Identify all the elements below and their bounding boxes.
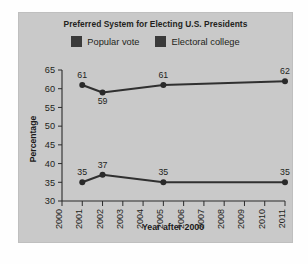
y-tick-label: 45 xyxy=(45,140,55,150)
plot-area: 3035404550556065 20002001200220032004200… xyxy=(18,12,293,243)
y-tick-label: 55 xyxy=(45,103,55,113)
y-axis: 3035404550556065 xyxy=(45,65,62,206)
y-tick-label: 40 xyxy=(45,159,55,169)
data-series xyxy=(79,78,288,185)
data-point-label: 62 xyxy=(280,66,290,76)
data-point xyxy=(79,179,85,185)
data-point-label: 59 xyxy=(98,96,108,106)
data-point-label: 35 xyxy=(77,167,87,177)
data-point xyxy=(79,82,85,88)
data-point-label: 37 xyxy=(98,160,108,170)
data-point xyxy=(160,82,166,88)
data-point xyxy=(100,172,106,178)
series-line xyxy=(82,81,285,92)
data-point xyxy=(282,179,288,185)
data-point xyxy=(160,179,166,185)
data-point-label: 61 xyxy=(158,70,168,80)
y-tick-label: 60 xyxy=(45,84,55,94)
series-line xyxy=(82,175,285,182)
y-tick-label: 35 xyxy=(45,178,55,188)
y-tick-label: 50 xyxy=(45,121,55,131)
data-point-label: 35 xyxy=(280,167,290,177)
y-tick-label: 30 xyxy=(45,196,55,206)
data-point xyxy=(100,89,106,95)
chart-panel: Preferred System for Electing U.S. Presi… xyxy=(18,12,293,243)
y-axis-title: Percentage xyxy=(28,104,38,174)
data-point-label: 35 xyxy=(158,167,168,177)
y-tick-label: 65 xyxy=(45,65,55,75)
x-axis-title: Year after 2000 xyxy=(58,222,288,232)
data-point xyxy=(282,78,288,84)
chart-figure: Preferred System for Electing U.S. Presi… xyxy=(0,0,308,264)
data-point-label: 61 xyxy=(77,70,87,80)
